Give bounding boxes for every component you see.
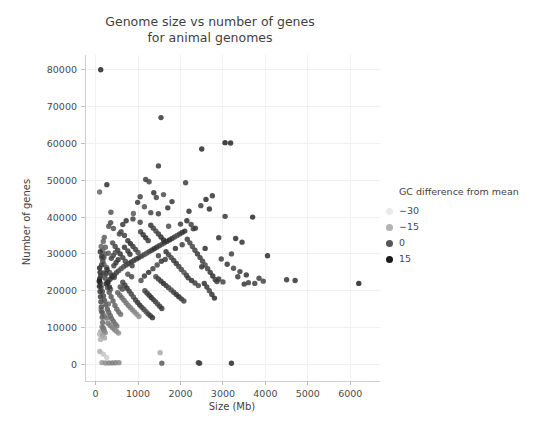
data-point (265, 253, 270, 258)
data-point (136, 314, 141, 319)
legend-item[interactable]: 0 (379, 235, 549, 251)
chart-figure: Genome size vs number of genes for anima… (0, 0, 558, 440)
data-point (101, 270, 106, 275)
data-point (154, 195, 159, 200)
data-point (224, 262, 229, 267)
data-point (135, 200, 140, 205)
data-point (216, 235, 221, 240)
data-point (212, 295, 217, 300)
data-point (207, 206, 212, 211)
data-point (233, 236, 238, 241)
legend-dot-icon (386, 240, 393, 247)
data-point (229, 251, 234, 256)
data-point (118, 312, 123, 317)
data-point (210, 193, 215, 198)
data-point (156, 163, 161, 168)
data-point (98, 299, 103, 304)
data-point (222, 214, 227, 219)
legend-entries: −30−15015 (399, 203, 549, 267)
data-point (150, 315, 155, 320)
data-point (203, 197, 208, 202)
data-point (123, 218, 128, 223)
x-tick-label: 4000 (253, 388, 277, 399)
legend-color-swatch (379, 208, 399, 215)
legend-item[interactable]: 15 (379, 251, 549, 267)
data-point (157, 350, 162, 355)
data-point (261, 278, 266, 283)
data-point (150, 266, 155, 271)
data-point (228, 140, 233, 145)
data-point (146, 270, 151, 275)
data-point (154, 262, 159, 267)
data-point (184, 218, 189, 223)
data-point (186, 208, 191, 213)
data-points (97, 67, 362, 366)
data-point (97, 189, 102, 194)
legend-color-swatch (379, 256, 399, 263)
data-point (146, 238, 151, 243)
x-tick-label: 1000 (126, 388, 150, 399)
data-point (239, 239, 244, 244)
data-point (284, 277, 289, 282)
data-point (222, 140, 227, 145)
data-point (219, 256, 224, 261)
data-point (99, 304, 104, 309)
data-point (156, 211, 161, 216)
data-point (250, 214, 255, 219)
data-point (129, 263, 134, 268)
data-point (130, 216, 135, 221)
data-point (182, 228, 187, 233)
legend-item[interactable]: −15 (379, 219, 549, 235)
data-point (108, 220, 113, 225)
legend-color-swatch (379, 224, 399, 231)
data-point (198, 203, 203, 208)
data-point (163, 257, 168, 262)
data-point (122, 233, 127, 238)
data-point (127, 252, 132, 257)
data-point (165, 205, 170, 210)
data-point (111, 226, 116, 231)
legend-item[interactable]: −30 (379, 203, 549, 219)
data-point (137, 220, 142, 225)
data-point (156, 253, 161, 258)
data-point (102, 235, 107, 240)
data-point (220, 279, 225, 284)
data-point (116, 330, 121, 335)
data-point (100, 320, 105, 325)
data-point (104, 315, 109, 320)
data-point (115, 257, 120, 262)
data-point (196, 360, 201, 365)
data-point (135, 250, 140, 255)
data-point (142, 204, 147, 209)
data-point (99, 253, 104, 258)
data-point (129, 274, 134, 279)
data-point (196, 283, 201, 288)
data-point (97, 289, 102, 294)
data-point (161, 192, 166, 197)
x-tick-label: 0 (93, 388, 99, 399)
data-point (138, 278, 143, 283)
data-point (356, 281, 361, 286)
data-point (97, 284, 102, 289)
data-point (159, 306, 164, 311)
data-point (142, 273, 147, 278)
data-point (246, 280, 251, 285)
data-point (108, 210, 113, 215)
data-point (137, 194, 142, 199)
data-point (178, 221, 183, 226)
data-point (131, 211, 136, 216)
data-point (244, 272, 249, 277)
y-tick-label: 40000 (47, 212, 77, 223)
y-tick-label: 50000 (47, 175, 77, 186)
y-tick-label: 60000 (47, 138, 77, 149)
data-point (113, 250, 118, 255)
data-point (161, 237, 166, 242)
legend: GC difference from mean −30−15015 (399, 186, 549, 267)
y-tick-label: 30000 (47, 248, 77, 259)
data-point (229, 361, 234, 366)
y-tick-label: 80000 (47, 64, 77, 75)
legend-color-swatch (379, 240, 399, 247)
data-point (199, 264, 204, 269)
data-point (97, 278, 102, 283)
y-tick-label: 20000 (47, 285, 77, 296)
